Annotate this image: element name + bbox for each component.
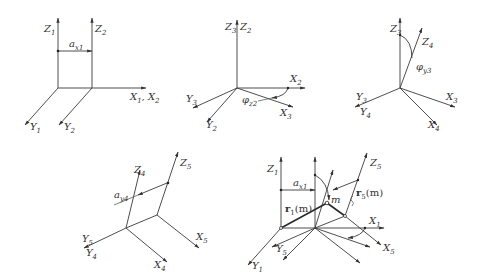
z2-label: Z2 bbox=[239, 21, 252, 35]
coordinate-transform-figure: Z1 Z2 ax1 X1, X2 Y1 Y2 Z3 Z2 X2 X3 Y3 Y2… bbox=[0, 0, 477, 279]
panel-translation-x: Z1 Z2 ax1 X1, X2 Y1 Y2 bbox=[25, 18, 160, 135]
z5-label: Z5 bbox=[369, 157, 382, 171]
x3-axis bbox=[315, 228, 370, 247]
y5-label: Y5 bbox=[82, 233, 94, 247]
x4-axis bbox=[315, 228, 360, 263]
y1-axis bbox=[25, 88, 58, 125]
phi-z2-label: φz2 bbox=[242, 94, 258, 108]
z4-label: Z4 bbox=[133, 164, 145, 178]
panel-rotation-z: Z3 Z2 X2 X3 Y3 Y2 φz2 bbox=[186, 20, 305, 133]
ay4-label: ay4 bbox=[114, 189, 128, 203]
x2-label: X2 bbox=[289, 73, 302, 87]
ay4-dimension bbox=[138, 183, 167, 195]
phi-y3-arc bbox=[400, 35, 412, 58]
x4-label: X4 bbox=[153, 259, 166, 273]
offset-line bbox=[315, 216, 345, 228]
origin-1 bbox=[280, 227, 283, 230]
x1-x2-label: X1, X2 bbox=[129, 91, 160, 105]
arc-dot-2 bbox=[364, 227, 366, 229]
r5-label: r5(m) bbox=[356, 187, 383, 201]
arc-dot bbox=[314, 174, 316, 176]
dimension-start-dot bbox=[280, 189, 283, 192]
x4-label: X4 bbox=[427, 119, 440, 133]
point-m bbox=[325, 201, 329, 205]
phi-y3-arc bbox=[315, 175, 329, 200]
y3-label: Y3 bbox=[356, 91, 368, 105]
y2-axis bbox=[283, 228, 315, 260]
ax1-label: ax1 bbox=[69, 38, 83, 52]
origin-5 bbox=[344, 215, 347, 218]
y2-label: Y2 bbox=[206, 119, 218, 133]
x3-label: X3 bbox=[279, 107, 292, 121]
y1-label: Y1 bbox=[30, 121, 41, 135]
y2-label: Y2 bbox=[64, 121, 76, 135]
z4-label: Z4 bbox=[421, 36, 433, 50]
y4-label: Y4 bbox=[86, 247, 97, 261]
z1-label: Z1 bbox=[43, 23, 55, 37]
m-label: m bbox=[331, 194, 340, 205]
x5-label: X5 bbox=[195, 231, 208, 245]
z2-label: Z2 bbox=[94, 23, 107, 37]
dimension-dot bbox=[357, 179, 359, 181]
y5-label: Y5 bbox=[276, 243, 288, 257]
ax1-label: ax1 bbox=[293, 177, 307, 191]
r1-label: r1(m) bbox=[285, 203, 312, 217]
y3-axis bbox=[193, 88, 237, 108]
panel-rotation-y: Z3 Z4 φy3 X3 X4 Y3 Y4 bbox=[355, 18, 458, 133]
panel-combined: Z1 Z5 ax1 r1(m) r5(m) m X1 X5 Y1 Y5 bbox=[248, 153, 395, 274]
y2-axis bbox=[59, 88, 92, 125]
x4-axis bbox=[126, 228, 167, 262]
offset-line bbox=[126, 215, 157, 228]
x1-label: X1 bbox=[368, 215, 381, 229]
z1-label: Z1 bbox=[266, 163, 278, 177]
dimension-start-dot bbox=[57, 50, 60, 53]
y2-axis bbox=[207, 88, 237, 122]
y1-label: Y1 bbox=[252, 260, 263, 274]
phi-z2-arc bbox=[272, 88, 288, 98]
phi-y3-label: φy3 bbox=[416, 61, 432, 75]
x5-label: X5 bbox=[382, 242, 395, 256]
y3-label: Y3 bbox=[186, 93, 198, 107]
x3-label: X3 bbox=[445, 91, 458, 105]
y4-label: Y4 bbox=[360, 106, 371, 120]
x5-axis bbox=[157, 215, 199, 248]
dimension-start-dot bbox=[167, 182, 170, 185]
r5-leader bbox=[351, 196, 354, 206]
z3-label: Z3 bbox=[224, 21, 237, 35]
arc-start-dot bbox=[287, 87, 289, 89]
z5-axis bbox=[345, 153, 367, 216]
z5-label: Z5 bbox=[179, 157, 192, 171]
panel-translation-y: Z4 Z5 ay4 X5 X4 Y5 Y4 bbox=[82, 152, 208, 273]
